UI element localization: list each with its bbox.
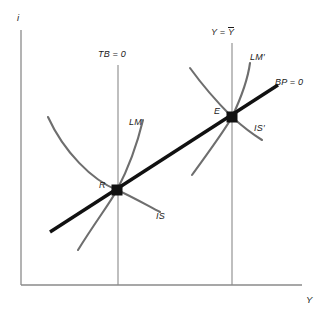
- lm-prime-curve: [192, 63, 250, 175]
- x-axis-label: Y: [306, 295, 313, 305]
- lm-prime-curve-label: LM′: [250, 53, 265, 62]
- is-prime-curve-label: IS′: [254, 124, 265, 133]
- is-lm-bp-diagram: i Y TB = 0 Y = Y LM IS LM′ IS′ BP = 0 R …: [0, 0, 329, 315]
- y-axis-label: i: [17, 13, 19, 23]
- point-marker-e: [227, 112, 238, 123]
- bp-zero-label: BP = 0: [275, 78, 303, 87]
- lm-curve-label: LM: [129, 118, 142, 127]
- is-curve-label: IS: [156, 212, 165, 221]
- point-marker-r: [112, 185, 123, 196]
- y-bar-label-barred: Y: [228, 27, 234, 37]
- lm-curve: [78, 120, 143, 250]
- point-label-r: R: [99, 181, 106, 190]
- bp-zero-line: [50, 85, 278, 232]
- y-bar-label: Y = Y: [211, 27, 234, 37]
- tb-zero-label: TB = 0: [98, 50, 126, 59]
- diagram-canvas: [0, 0, 329, 315]
- point-label-e: E: [214, 107, 220, 116]
- y-bar-label-prefix: Y =: [211, 27, 228, 37]
